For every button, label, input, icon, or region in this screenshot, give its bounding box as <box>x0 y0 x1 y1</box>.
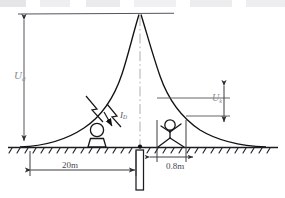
current-label: ID <box>120 110 127 120</box>
distance-08m-label: 0.8m <box>166 161 184 171</box>
grounding-electrode <box>136 150 144 190</box>
touch-voltage-label: Ud <box>14 69 25 82</box>
walking-person-figure <box>158 120 184 147</box>
ground-potential-diagram: Ud Uk ID 20m 0.8m <box>0 0 285 198</box>
step-voltage-label: Uk <box>212 92 222 104</box>
touch-voltage-subscript: d <box>22 75 25 82</box>
potential-curve <box>20 15 266 148</box>
touch-voltage-symbol: U <box>14 69 22 81</box>
step-voltage-subscript: k <box>219 97 222 104</box>
current-subscript: D <box>123 114 127 120</box>
diagram-canvas <box>0 0 285 198</box>
distance-20m-label: 20m <box>62 160 78 170</box>
crouching-person-figure <box>88 123 106 147</box>
electrode-ground-node <box>138 145 142 149</box>
top-reference-line <box>18 13 174 14</box>
distance-20m-dimension <box>30 151 136 176</box>
lightning-current-arrow <box>104 112 112 126</box>
